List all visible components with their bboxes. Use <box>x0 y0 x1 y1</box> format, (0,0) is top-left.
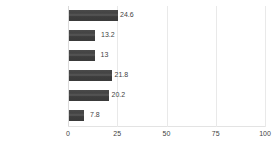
gridline-25 <box>117 6 118 127</box>
x-tick-50: 50 <box>163 130 171 137</box>
x-tick-100: 100 <box>259 130 271 137</box>
bar-value-label: 13 <box>101 49 109 60</box>
bar <box>69 70 112 81</box>
gridline-75 <box>216 6 217 127</box>
bar-value-label: 7.8 <box>90 109 100 120</box>
bar-value-label: 24.6 <box>120 9 134 20</box>
x-tick-75: 75 <box>212 130 220 137</box>
bar <box>69 10 118 21</box>
x-tick-0: 0 <box>66 130 70 137</box>
bar <box>69 30 95 41</box>
bar-value-label: 21.8 <box>115 69 129 80</box>
bar <box>69 110 84 121</box>
bar <box>69 90 109 101</box>
gridline-50 <box>167 6 168 127</box>
x-axis-ticks: 0 25 50 75 100 <box>68 130 265 144</box>
gridline-100 <box>265 6 266 127</box>
bar-chart: I don't know what postmodernism is. 24.6… <box>0 0 278 148</box>
bar-value-label: 13.2 <box>101 29 115 40</box>
y-axis-line <box>68 6 69 127</box>
plot-area: I don't know what postmodernism is. 24.6… <box>68 6 265 127</box>
bar <box>69 50 95 61</box>
x-tick-25: 25 <box>113 130 121 137</box>
bar-value-label: 20.2 <box>112 89 126 100</box>
